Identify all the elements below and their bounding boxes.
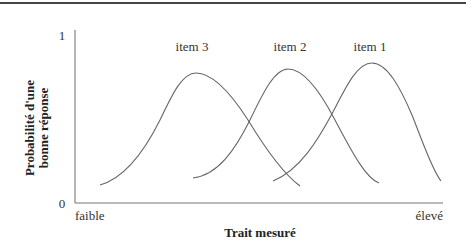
y-axis-title: Probabilité d'une bonne réponse [22, 80, 51, 176]
irt-chart: 1 0 faible élevé Trait mesuré Probabilit… [0, 0, 473, 252]
item-1-label: item 1 [354, 39, 387, 54]
curve-item-3 [100, 73, 300, 186]
y-tick-1: 1 [59, 28, 66, 43]
item-2-label: item 2 [274, 39, 307, 54]
item-3-label: item 3 [176, 39, 209, 54]
curve-item-1 [273, 63, 441, 181]
y-axis-title-line2: bonne réponse [36, 88, 51, 169]
y-axis-title-line1: Probabilité d'une [22, 80, 37, 176]
x-label-low: faible [75, 208, 105, 223]
x-axis-title: Trait mesuré [224, 225, 296, 240]
y-tick-0: 0 [59, 196, 66, 211]
x-label-high: élevé [416, 208, 444, 223]
